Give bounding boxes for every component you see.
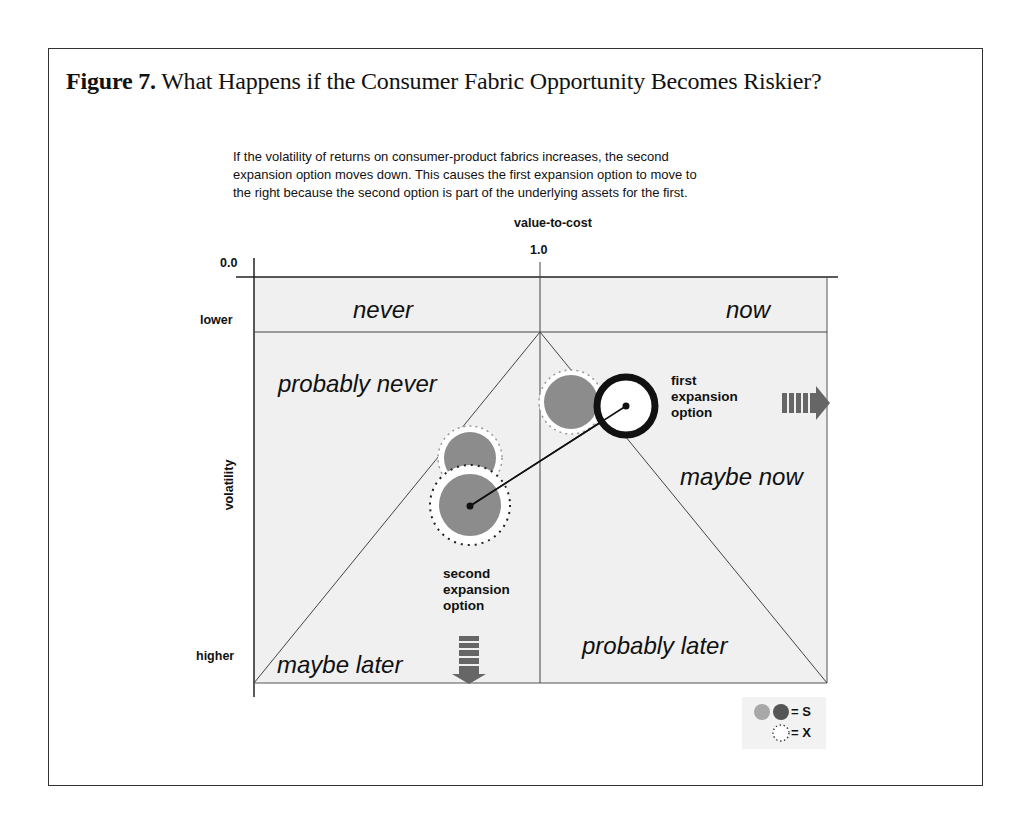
first-option-previous-s-icon (544, 375, 598, 429)
y-tick-higher: higher (196, 649, 234, 663)
y-tick-lower: lower (200, 313, 233, 327)
legend-s-light-icon (754, 704, 770, 720)
region-probably-later: probably later (582, 632, 727, 660)
x-tick-0: 0.0 (220, 256, 237, 270)
legend-s-dark-icon (773, 704, 789, 720)
label-line: option (671, 405, 738, 421)
label-line: second (443, 566, 510, 582)
y-axis-title: volatility (222, 460, 236, 511)
label-line: first (671, 373, 738, 389)
legend-x-label: = X (791, 725, 811, 740)
region-now: now (726, 296, 770, 324)
region-maybe-later: maybe later (277, 651, 402, 679)
label-line: expansion (443, 582, 510, 598)
second-option-label: second expansion option (443, 566, 510, 614)
diagram-canvas (0, 0, 1034, 835)
legend: = S = X (742, 697, 826, 749)
region-maybe-now: maybe now (680, 463, 803, 491)
x-tick-1: 1.0 (530, 243, 547, 257)
region-probably-never: probably never (278, 370, 437, 398)
legend-s-label: = S (791, 704, 811, 719)
second-option-center-dot (467, 503, 474, 510)
label-line: expansion (671, 389, 738, 405)
region-never: never (353, 296, 413, 324)
x-axis-title: value-to-cost (514, 216, 592, 230)
first-option-label: first expansion option (671, 373, 738, 421)
label-line: option (443, 598, 510, 614)
legend-x-icon (773, 725, 789, 741)
